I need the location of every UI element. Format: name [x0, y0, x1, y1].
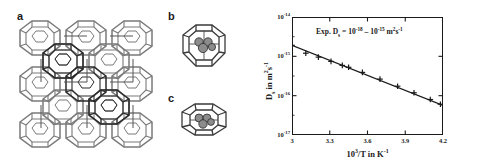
xtick-label-2: 3.6	[363, 138, 371, 145]
data-point	[292, 43, 295, 49]
panel-label-b: b	[168, 11, 175, 22]
y-axis-title: Ds in m2s-1	[264, 26, 274, 136]
xtick-label-1: 3.3	[326, 138, 334, 145]
fit-line	[292, 45, 443, 105]
xtick-label-3: 3.9	[401, 138, 409, 145]
ytick-label-1: 10-15	[277, 53, 290, 60]
ytick-label-2: 10-16	[277, 92, 290, 99]
data-point	[438, 101, 443, 107]
plot-data-layer	[292, 17, 443, 135]
xtick-label-0: 3	[290, 138, 293, 145]
zeolite-cage-network-diagram	[14, 14, 164, 164]
single-cage-with-guest-diagram-b	[178, 22, 230, 74]
structure-panels-group: a b c	[0, 0, 240, 168]
arrhenius-diffusivity-chart: 10-14 10-15 10-16 10-17 3 3.3 3.6 3.9 4.…	[240, 0, 479, 168]
ytick-label-3: 10-17	[277, 132, 290, 139]
figure-container: a b c	[0, 0, 479, 168]
single-cage-with-guest-diagram-c	[178, 100, 230, 142]
x-axis-title: 103/T in K-1	[292, 149, 443, 159]
ytick-label-0: 10-14	[277, 14, 290, 21]
panel-label-c: c	[168, 93, 174, 104]
xtick-label-4: 4.2	[439, 138, 447, 145]
data-point	[340, 63, 346, 69]
